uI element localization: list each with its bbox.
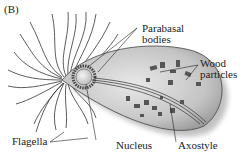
leader-flagella-2 [50, 138, 88, 142]
panel-label: (B) [4, 4, 19, 15]
label-parabasal-bodies-line2: bodies [142, 34, 171, 45]
label-wood-particles-line2: particles [200, 69, 237, 80]
protist-diagram: (B) Parabasal bodies Wood particles Flag… [0, 0, 244, 156]
nucleus-shape [76, 69, 92, 85]
label-nucleus: Nucleus [116, 140, 152, 151]
label-flagella: Flagella [12, 136, 47, 147]
label-axostyle: Axostyle [178, 140, 218, 151]
